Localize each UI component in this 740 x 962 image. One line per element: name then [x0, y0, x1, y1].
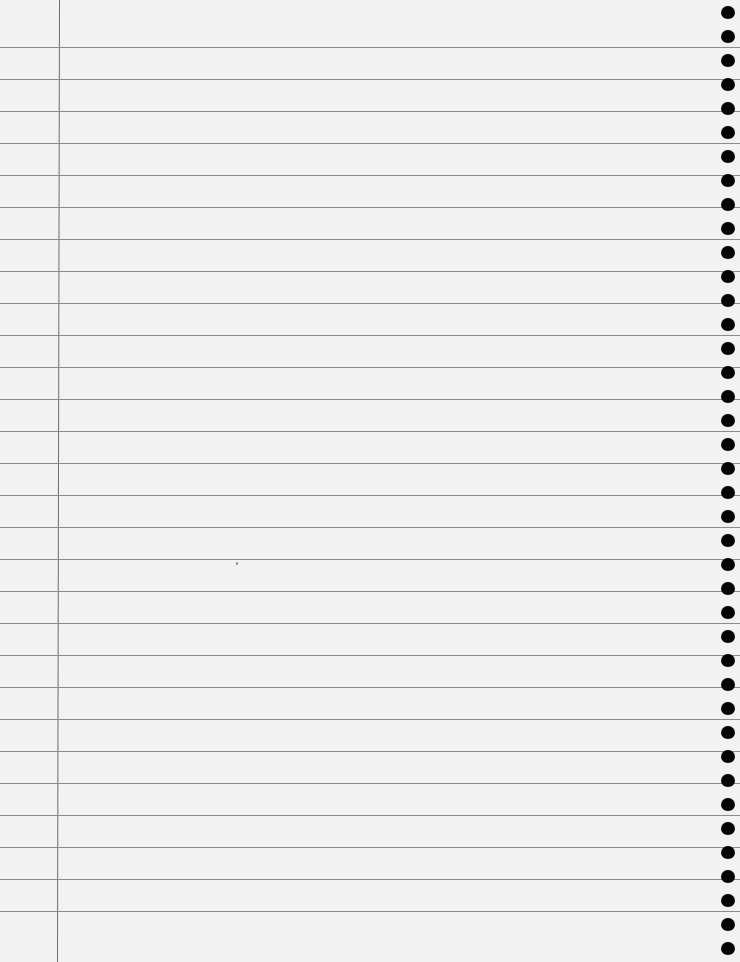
spiral-hole	[721, 414, 735, 427]
spiral-hole	[721, 198, 735, 211]
spiral-hole	[721, 942, 735, 955]
ruled-line	[0, 719, 740, 720]
spiral-hole	[721, 6, 735, 19]
ruled-line	[0, 335, 740, 336]
spiral-hole	[721, 798, 735, 811]
ruled-line	[0, 271, 740, 272]
ruled-line	[0, 495, 740, 496]
ruled-line	[0, 847, 740, 848]
ruled-line	[0, 687, 740, 688]
spiral-hole	[721, 606, 735, 619]
ruled-line	[0, 111, 740, 112]
ruled-line	[0, 367, 740, 368]
spiral-hole	[721, 54, 735, 67]
spiral-hole	[721, 78, 735, 91]
spiral-hole	[721, 390, 735, 403]
spiral-hole	[721, 774, 735, 787]
ruled-line	[0, 591, 740, 592]
ruled-line	[0, 559, 740, 560]
spiral-hole	[721, 222, 735, 235]
spiral-hole	[721, 630, 735, 643]
spiral-hole	[721, 318, 735, 331]
ruled-line	[0, 815, 740, 816]
spiral-hole	[721, 678, 735, 691]
ruled-line	[0, 431, 740, 432]
ruled-line	[0, 79, 740, 80]
ruled-line	[0, 879, 740, 880]
ruled-line	[0, 399, 740, 400]
ruled-line	[0, 143, 740, 144]
spiral-hole	[721, 126, 735, 139]
paper-speck	[236, 562, 238, 565]
spiral-hole	[721, 366, 735, 379]
ruled-line	[0, 175, 740, 176]
spiral-hole	[721, 246, 735, 259]
spiral-hole	[721, 558, 735, 571]
spiral-hole	[721, 174, 735, 187]
spiral-hole	[721, 102, 735, 115]
margin-line	[57, 0, 60, 962]
spiral-hole	[721, 30, 735, 43]
ruled-line	[0, 911, 740, 912]
spiral-hole	[721, 510, 735, 523]
spiral-hole	[721, 534, 735, 547]
spiral-hole	[721, 750, 735, 763]
spiral-hole	[721, 846, 735, 859]
ruled-line	[0, 303, 740, 304]
spiral-hole	[721, 150, 735, 163]
spiral-hole	[721, 918, 735, 931]
spiral-hole	[721, 822, 735, 835]
spiral-hole	[721, 486, 735, 499]
ruled-line	[0, 655, 740, 656]
spiral-hole	[721, 726, 735, 739]
spiral-hole	[721, 582, 735, 595]
spiral-hole	[721, 462, 735, 475]
notebook-page	[0, 0, 740, 962]
spiral-hole	[721, 342, 735, 355]
spiral-hole	[721, 894, 735, 907]
ruled-line	[0, 623, 740, 624]
ruled-line	[0, 463, 740, 464]
ruled-line	[0, 47, 740, 48]
ruled-line	[0, 527, 740, 528]
spiral-hole	[721, 654, 735, 667]
spiral-hole	[721, 438, 735, 451]
spiral-hole	[721, 270, 735, 283]
spiral-hole	[721, 702, 735, 715]
spiral-hole	[721, 294, 735, 307]
ruled-line	[0, 783, 740, 784]
ruled-line	[0, 239, 740, 240]
ruled-line	[0, 751, 740, 752]
spiral-hole	[721, 870, 735, 883]
ruled-line	[0, 207, 740, 208]
